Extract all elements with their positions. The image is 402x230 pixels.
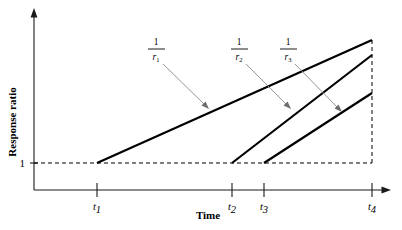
x-tick-label-t4: t4 (368, 201, 377, 215)
curve-label-1-numerator: 1 (154, 37, 159, 47)
x-tick-labels-group: t1 t2 t3 t4 (93, 201, 377, 215)
curve-label-1-denominator: r1 (153, 52, 160, 63)
y-axis-title: Response ratio (6, 87, 18, 157)
curve-label-1-leader-line (163, 64, 205, 105)
curve-label-3-denominator: r3 (285, 52, 292, 63)
series-line-1 (97, 40, 372, 163)
curve-label-2-leader-line (246, 64, 287, 105)
series-lines-group (97, 40, 372, 163)
curve-label-2-numerator: 1 (237, 37, 242, 47)
curve-label-2-denominator: r2 (236, 52, 243, 63)
x-axis-arrowhead (382, 187, 392, 194)
series-line-3 (264, 93, 372, 163)
y-tick-one-label: 1 (20, 157, 26, 169)
x-axis-title: Time (196, 209, 220, 221)
curve-label-1: 1 r1 (148, 37, 209, 109)
x-tick-label-t3: t3 (260, 201, 268, 215)
response-ratio-chart: Response ratio Time 1 t1 t2 (0, 0, 402, 230)
y-axis-arrowhead (31, 8, 38, 18)
x-tick-label-t2: t2 (228, 201, 237, 215)
figure-container: Response ratio Time 1 t1 t2 (0, 0, 402, 230)
curve-label-3-numerator: 1 (286, 37, 291, 47)
x-tick-label-t1: t1 (93, 201, 101, 215)
axes-group (31, 8, 391, 193)
